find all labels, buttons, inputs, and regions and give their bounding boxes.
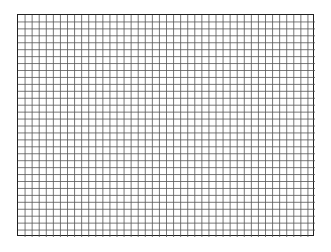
graph-paper-grid: [17, 14, 314, 236]
grid-lines: [18, 15, 315, 237]
